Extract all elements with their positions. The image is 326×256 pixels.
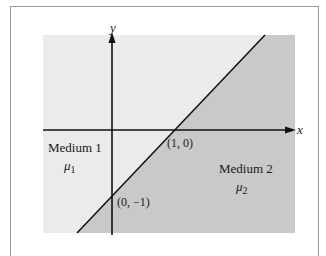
x-axis-label: x bbox=[296, 122, 303, 137]
y-axis-label: y bbox=[108, 20, 116, 35]
medium-2-label: Medium 2 bbox=[219, 161, 273, 176]
medium-1-label: Medium 1 bbox=[48, 140, 102, 155]
point-label-0-neg1: (0, −1) bbox=[117, 195, 150, 209]
point-label-1-0: (1, 0) bbox=[167, 136, 193, 150]
